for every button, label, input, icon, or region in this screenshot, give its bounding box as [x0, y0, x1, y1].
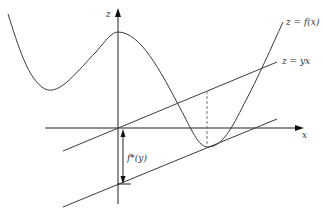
curve-f — [8, 14, 283, 147]
z-axis-label: z — [105, 9, 111, 19]
z-axis-arrowhead-icon — [115, 8, 121, 17]
line-yx — [63, 62, 277, 151]
conjugate-label: f*(y) — [126, 153, 147, 163]
conjugate-function-diagram: z x z = f(x) z = yx f*(y) — [0, 0, 323, 215]
curve-f-label: z = f(x) — [285, 17, 320, 27]
arrow-up-icon — [121, 129, 126, 137]
x-axis-label: x — [302, 130, 307, 140]
line-yx-label: z = yx — [281, 56, 310, 66]
supporting-line — [63, 119, 277, 207]
